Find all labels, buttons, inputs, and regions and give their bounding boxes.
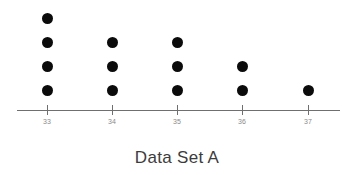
data-dot: [237, 61, 248, 72]
data-dot: [107, 61, 118, 72]
x-axis-tick: [242, 105, 243, 115]
data-dot: [172, 37, 183, 48]
data-dot: [42, 13, 53, 24]
data-dot: [237, 85, 248, 96]
x-axis-tick-label: 34: [92, 117, 132, 126]
x-axis-tick: [47, 105, 48, 115]
dot-plot-figure: 3334353637 Data Set A: [0, 0, 354, 175]
x-axis-tick: [112, 105, 113, 115]
data-dot: [172, 85, 183, 96]
data-dot: [42, 85, 53, 96]
x-axis-tick-label: 36: [222, 117, 262, 126]
data-dot: [107, 85, 118, 96]
x-axis-tick: [308, 105, 309, 115]
x-axis-tick-label: 33: [27, 117, 67, 126]
x-axis-tick: [177, 105, 178, 115]
x-axis-tick-label: 37: [288, 117, 328, 126]
x-axis-line: [17, 110, 340, 111]
data-dot: [172, 61, 183, 72]
data-dot: [42, 61, 53, 72]
plot-area: 3334353637: [0, 0, 354, 120]
x-axis-tick-label: 35: [157, 117, 197, 126]
data-dot: [42, 37, 53, 48]
chart-title: Data Set A: [0, 148, 354, 168]
data-dot: [303, 85, 314, 96]
data-dot: [107, 37, 118, 48]
